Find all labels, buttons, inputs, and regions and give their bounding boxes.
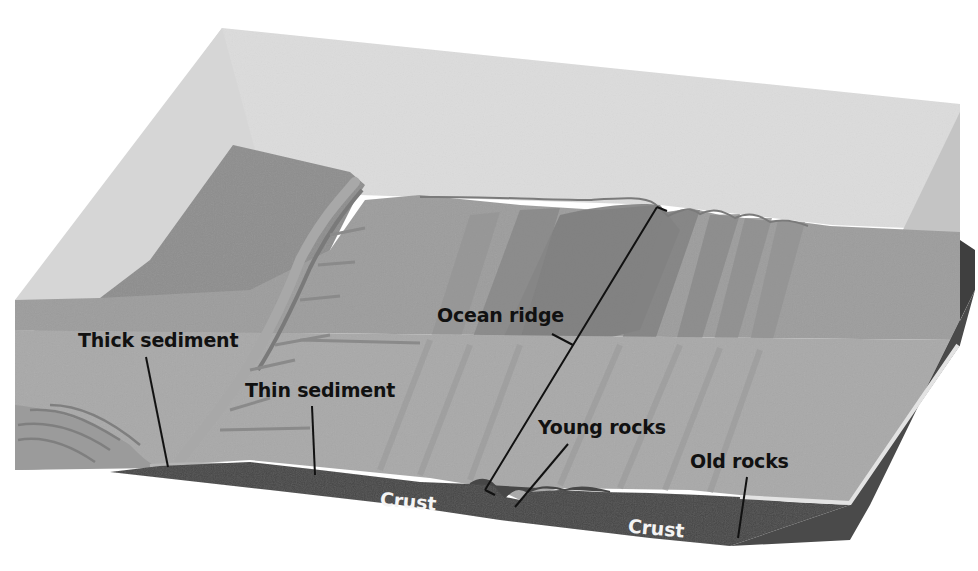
old-rocks-label: Old rocks [690, 452, 789, 471]
crust-label-right: Crust [627, 517, 685, 541]
seafloor-near-surface [15, 330, 960, 505]
crust-label-left: Crust [379, 490, 437, 514]
seafloor-block-diagram [0, 0, 978, 571]
young-rocks-label: Young rocks [538, 418, 666, 437]
seafloor-near [15, 330, 960, 505]
thin-sediment-label: Thin sediment [245, 381, 395, 400]
ocean-ridge-label: Ocean ridge [437, 306, 564, 325]
thick-sediment-label: Thick sediment [78, 331, 238, 350]
